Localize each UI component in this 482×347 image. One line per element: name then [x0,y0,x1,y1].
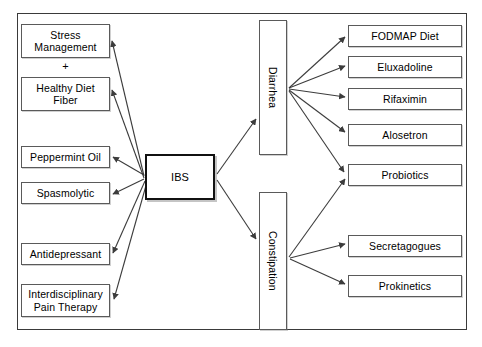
node-interdisciplinary-pain-therapy-label: InterdisciplinaryPain Therapy [28,288,103,313]
node-secretagogues-label: Secretagogues [369,240,441,253]
node-stress-management-label: StressManagement [34,29,96,54]
node-constipation-label: Constipation [267,231,280,291]
node-probiotics[interactable]: Probiotics [348,164,462,186]
node-prokinetics-label: Prokinetics [379,280,431,293]
node-probiotics-label: Probiotics [381,169,428,182]
node-prokinetics[interactable]: Prokinetics [348,275,462,297]
node-peppermint-oil[interactable]: Peppermint Oil [21,146,110,168]
node-ibs-label: IBS [171,171,189,184]
node-constipation[interactable]: Constipation [259,192,287,330]
node-spasmolytic-label: Spasmolytic [37,187,95,200]
node-fodmap-diet-label: FODMAP Diet [371,30,438,43]
node-interdisciplinary-pain-therapy[interactable]: InterdisciplinaryPain Therapy [21,284,110,317]
node-antidepressant-label: Antidepressant [30,248,101,261]
node-diarrhea[interactable]: Diarrhea [259,20,287,155]
node-rifaximin-label: Rifaximin [383,93,427,106]
node-alosetron-label: Alosetron [382,129,427,142]
node-alosetron[interactable]: Alosetron [348,124,462,146]
node-diarrhea-label: Diarrhea [267,67,280,108]
node-ibs[interactable]: IBS [145,154,215,200]
node-healthy-diet-fiber-label: Healthy DietFiber [36,82,94,107]
node-peppermint-oil-label: Peppermint Oil [30,151,101,164]
node-rifaximin[interactable]: Rifaximin [348,88,462,110]
node-eluxadoline-label: Eluxadoline [377,61,432,74]
node-antidepressant[interactable]: Antidepressant [21,243,110,265]
plus-connector: + [21,61,110,72]
node-secretagogues[interactable]: Secretagogues [348,235,462,257]
node-healthy-diet-fiber[interactable]: Healthy DietFiber [21,77,110,111]
node-eluxadoline[interactable]: Eluxadoline [348,56,462,78]
node-spasmolytic[interactable]: Spasmolytic [21,182,110,204]
node-fodmap-diet[interactable]: FODMAP Diet [348,25,462,47]
ibs-treatment-diagram: StressManagement + Healthy DietFiber Pep… [0,0,482,347]
node-stress-management[interactable]: StressManagement [21,24,110,58]
